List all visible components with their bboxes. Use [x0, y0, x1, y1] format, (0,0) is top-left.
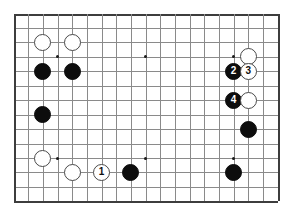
board-gridline-vertical [160, 14, 161, 202]
stone-black[interactable] [64, 63, 81, 80]
stone-move-number: 1 [99, 167, 105, 177]
board-gridline-vertical [58, 14, 59, 202]
stone-white[interactable] [240, 92, 257, 109]
board-gridline-vertical [175, 14, 176, 202]
stone-white[interactable] [34, 34, 51, 51]
stone-black[interactable] [225, 164, 242, 181]
stone-white[interactable] [64, 34, 81, 51]
star-point [56, 55, 59, 58]
board-gridline-vertical [263, 14, 264, 202]
star-point [232, 55, 235, 58]
board-gridline-vertical [219, 14, 220, 202]
board-gridline-vertical [146, 14, 147, 202]
stone-white[interactable] [34, 150, 51, 167]
board-edge-vertical [14, 14, 16, 202]
board-gridline-vertical [28, 14, 29, 202]
stone-white-move-1[interactable]: 1 [93, 164, 110, 181]
stone-black[interactable] [34, 106, 51, 123]
stone-black[interactable] [240, 121, 257, 138]
go-board-diagram: 1234 [0, 0, 289, 214]
stone-move-number: 2 [231, 66, 237, 76]
stone-white[interactable] [64, 164, 81, 181]
board-edge-vertical [278, 14, 280, 202]
board-gridline-vertical [116, 14, 117, 202]
stone-black[interactable] [122, 164, 139, 181]
star-point [56, 157, 59, 160]
star-point [232, 157, 235, 160]
board-gridline-vertical [87, 14, 88, 202]
stone-black[interactable] [34, 63, 51, 80]
board-gridline-vertical [204, 14, 205, 202]
board-edge-horizontal [14, 201, 278, 203]
stone-white-move-3[interactable]: 3 [240, 63, 257, 80]
stone-move-number: 3 [245, 66, 251, 76]
board-gridline-vertical [190, 14, 191, 202]
go-board-surface[interactable]: 1234 [0, 0, 289, 214]
star-point [144, 55, 147, 58]
stone-move-number: 4 [231, 95, 237, 105]
star-point [144, 157, 147, 160]
